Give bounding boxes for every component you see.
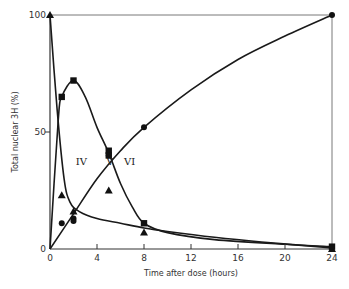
circle-marker	[329, 12, 335, 18]
x-tick-label: 20	[279, 253, 291, 263]
x-tick-label: 24	[326, 253, 338, 263]
axis-ticks: 04812162024050100	[29, 10, 338, 263]
y-axis-label: Total nuclear 3H (%)	[11, 91, 20, 173]
y-tick-label: 100	[29, 10, 46, 20]
curve-vi	[50, 81, 332, 249]
triangle-marker	[46, 11, 54, 18]
square-marker	[141, 220, 147, 226]
circle-marker	[71, 218, 77, 224]
annotation-iv: IV	[76, 156, 88, 167]
triangle-marker	[140, 229, 148, 236]
annotation-v: V	[105, 156, 114, 167]
x-tick-label: 16	[232, 253, 244, 263]
chart: 04812162024050100 IVVVI Time after dose …	[0, 0, 349, 289]
square-marker	[70, 77, 76, 83]
annotation-vi: VI	[123, 156, 135, 167]
square-marker	[59, 94, 65, 100]
x-tick-label: 0	[47, 253, 53, 263]
plot-frame	[50, 15, 332, 249]
circle-marker	[59, 220, 65, 226]
circle-marker	[141, 124, 147, 130]
curve-v	[50, 15, 332, 249]
y-tick-label: 50	[35, 127, 47, 137]
x-tick-label: 8	[141, 253, 147, 263]
x-tick-label: 4	[94, 253, 100, 263]
x-axis-label: Time after dose (hours)	[143, 269, 238, 278]
y-tick-label: 0	[40, 244, 46, 254]
triangle-marker	[58, 191, 66, 198]
curve-annotations: IVVVI	[76, 156, 135, 167]
curve-iv	[50, 15, 332, 248]
series-curves	[50, 15, 332, 249]
triangle-marker	[105, 187, 113, 194]
square-marker	[329, 243, 335, 249]
x-tick-label: 12	[185, 253, 196, 263]
